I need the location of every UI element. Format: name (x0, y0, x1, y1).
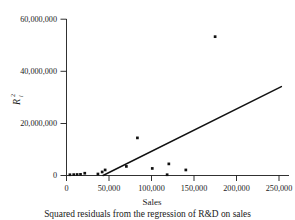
data-point (76, 173, 79, 176)
data-point (83, 172, 86, 175)
x-tick-label: 0 (64, 184, 68, 193)
chart-figure: 0 20,000,000 40,000,000 60,000,000 0 50,… (0, 0, 295, 220)
y-tick-label: 40,000,000 (20, 67, 57, 76)
x-tick-marks (67, 176, 280, 182)
x-tick-labels: 0 50,000 100,000 150,000 200,000 250,000 (64, 184, 292, 193)
y-axis-title-superscript: 2 (9, 94, 16, 97)
y-axis-title: R 2 i (9, 94, 23, 106)
data-point (97, 173, 100, 176)
y-axis-title-subscript: i (17, 95, 24, 97)
regression-line (103, 87, 281, 176)
y-axis-title-base: R (11, 99, 22, 106)
x-tick-label: 100,000 (138, 184, 165, 193)
x-tick-label: 200,000 (223, 184, 250, 193)
y-tick-marks (61, 19, 67, 175)
data-point (166, 173, 169, 176)
figure-caption: Squared residuals from the regression of… (44, 209, 251, 219)
y-tick-labels: 0 20,000,000 40,000,000 60,000,000 (20, 15, 57, 180)
y-tick-label: 0 (53, 171, 57, 180)
x-axis-title: Sales (143, 197, 162, 207)
data-point (72, 173, 75, 176)
scatter-plot: 0 20,000,000 40,000,000 60,000,000 0 50,… (0, 0, 295, 220)
data-points-group (69, 35, 217, 176)
data-point (151, 167, 154, 170)
data-point (69, 173, 72, 176)
data-point (125, 165, 128, 168)
x-tick-label: 150,000 (181, 184, 208, 193)
data-point (214, 35, 217, 38)
data-point (104, 169, 107, 172)
data-point (184, 169, 187, 172)
y-tick-label: 20,000,000 (20, 119, 57, 128)
x-tick-label: 250,000 (266, 184, 293, 193)
data-point (167, 163, 170, 166)
data-point (136, 137, 139, 140)
x-tick-label: 50,000 (98, 184, 121, 193)
data-point (101, 171, 104, 174)
y-tick-label: 60,000,000 (20, 15, 57, 24)
data-point (79, 173, 82, 176)
